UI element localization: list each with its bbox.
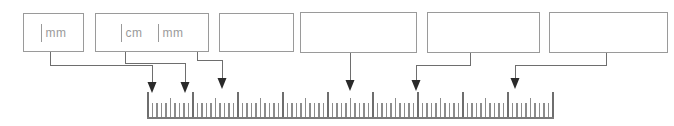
arrowhead-icon [218, 78, 227, 89]
callout-content: cmmm [121, 24, 184, 42]
arrowhead-icon [148, 82, 157, 93]
ruler-baseline [147, 117, 554, 119]
callout-box[interactable] [549, 12, 668, 53]
callout-content: mm [41, 24, 67, 42]
callout-box[interactable] [300, 12, 417, 53]
arrowhead-icon [412, 80, 421, 91]
unit-label: cm [126, 27, 143, 39]
arrowhead-icon [511, 78, 520, 89]
callout-box[interactable] [427, 12, 540, 53]
tick-mark-icon [121, 24, 122, 42]
diagram-canvas: mmcmmm [0, 0, 674, 126]
arrowhead-icon [346, 80, 355, 91]
ruler [147, 92, 554, 119]
arrowhead-icon [181, 82, 190, 93]
callout-connector-line [50, 52, 152, 86]
callout-box[interactable]: mm [23, 13, 84, 52]
tick-mark-icon [41, 24, 42, 42]
callout-connector-line [125, 52, 185, 86]
callout-box[interactable] [219, 13, 294, 52]
arrowheads-layer [148, 78, 520, 93]
callout-box[interactable]: cmmm [95, 13, 209, 52]
connectors-layer [50, 52, 606, 86]
unit-label: mm [163, 27, 184, 39]
callout-connector-line [416, 53, 470, 82]
unit-label: mm [46, 27, 67, 39]
tick-mark-icon [158, 24, 159, 42]
callout-connector-line [515, 53, 606, 80]
callout-connector-line [197, 52, 222, 80]
